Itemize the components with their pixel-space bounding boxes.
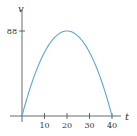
x-tick-label-30: 30 [84, 121, 94, 130]
y-tick-label-88: 88 [7, 27, 17, 36]
velocity-curve [22, 31, 112, 116]
y-axis-label: v [18, 3, 24, 14]
x-axis-label: t [125, 111, 130, 122]
x-tick-label-10: 10 [39, 121, 49, 130]
velocity-chart: 88 10 20 30 40 v t [0, 0, 137, 136]
x-tick-label-20: 20 [62, 121, 72, 130]
x-tick-label-40: 40 [107, 121, 117, 130]
